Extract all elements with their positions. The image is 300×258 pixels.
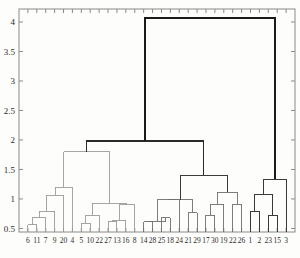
x-tick-label-16: 18: [167, 236, 175, 245]
y-tick-label-2.5: 2.5: [4, 106, 16, 116]
x-tick-label-28: 15: [273, 236, 281, 245]
x-tick-label-22: 19: [220, 236, 228, 245]
x-tick-label-4: 20: [60, 236, 68, 245]
x-tick-label-6: 5: [79, 236, 83, 245]
y-tick-label-2: 2: [11, 135, 16, 145]
figure-background: [0, 0, 300, 258]
dendrogram-plot: 0.511.522.533.54 61179204510222713168142…: [0, 0, 300, 258]
x-tick-label-25: 1: [249, 236, 253, 245]
x-tick-label-27: 23: [265, 236, 273, 245]
x-tick-label-24: 26: [238, 236, 246, 245]
x-tick-label-5: 4: [71, 236, 75, 245]
x-tick-label-9: 27: [104, 236, 112, 245]
x-tick-label-11: 16: [122, 236, 130, 245]
x-tick-label-12: 8: [133, 236, 137, 245]
x-tick-label-1: 11: [33, 236, 40, 245]
x-tick-label-21: 30: [211, 236, 219, 245]
x-tick-label-8: 22: [95, 236, 103, 245]
dendrogram-figure: 0.511.522.533.54 61179204510222713168142…: [0, 0, 300, 258]
x-tick-label-10: 13: [113, 236, 121, 245]
x-tick-label-29: 3: [284, 236, 288, 245]
y-tick-label-3.5: 3.5: [4, 47, 16, 57]
x-tick-label-0: 6: [26, 236, 30, 245]
x-tick-label-7: 10: [86, 236, 94, 245]
x-tick-label-13: 14: [140, 236, 148, 245]
y-tick-label-4: 4: [11, 17, 16, 27]
y-tick-label-1: 1: [11, 194, 16, 204]
x-tick-label-26: 2: [258, 236, 262, 245]
x-tick-label-17: 24: [176, 236, 184, 245]
x-tick-label-15: 25: [158, 236, 166, 245]
x-tick-label-23: 22: [229, 236, 237, 245]
x-axis-tick-labels: 6117920451022271316814282518242129173019…: [26, 236, 288, 245]
x-tick-label-3: 9: [53, 236, 57, 245]
x-tick-label-14: 28: [149, 236, 157, 245]
x-tick-label-19: 29: [193, 236, 201, 245]
x-tick-label-18: 21: [184, 236, 192, 245]
y-tick-label-0.5: 0.5: [4, 224, 16, 234]
x-tick-label-20: 17: [202, 236, 210, 245]
x-tick-label-2: 7: [44, 236, 48, 245]
y-tick-label-1.5: 1.5: [4, 165, 16, 175]
y-tick-label-3: 3: [11, 76, 16, 86]
